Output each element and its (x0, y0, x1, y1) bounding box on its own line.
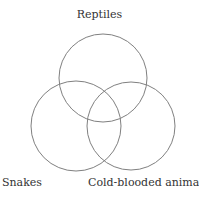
venn-diagram (0, 0, 199, 201)
reptiles-circle (59, 34, 147, 122)
cold-blooded-label: Cold-blooded animals (88, 176, 199, 189)
reptiles-label: Reptiles (0, 8, 199, 21)
snakes-label: Snakes (2, 176, 42, 189)
cold-blooded-circle (87, 82, 175, 170)
snakes-circle (31, 81, 121, 171)
